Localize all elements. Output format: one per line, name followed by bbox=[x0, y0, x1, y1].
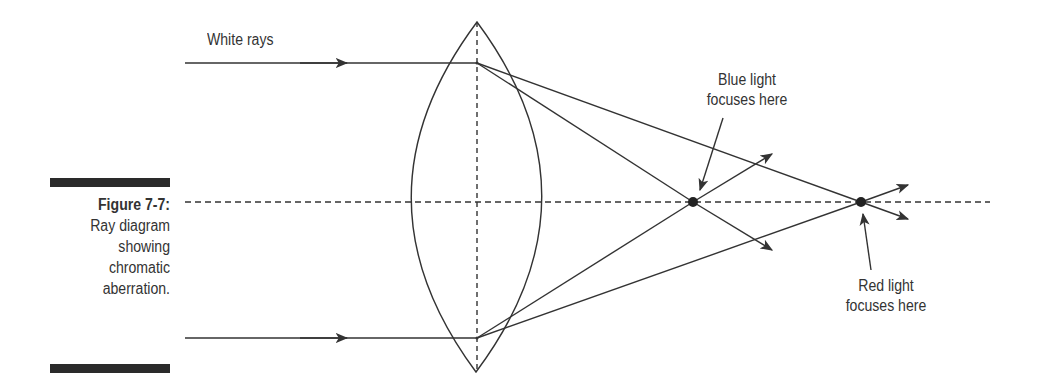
blue-ray-bottom-exit bbox=[693, 154, 772, 202]
blue-focus-label: Blue light focuses here bbox=[690, 70, 804, 110]
red-focus-label: Red light focuses here bbox=[829, 276, 943, 316]
red-focus-label-line2: focuses here bbox=[829, 296, 943, 316]
white-rays-label: White rays bbox=[207, 30, 313, 50]
blue-focus-label-line1: Blue light bbox=[690, 70, 804, 90]
red-focus-label-line1: Red light bbox=[829, 276, 943, 296]
blue-focal-point bbox=[688, 197, 698, 207]
lens-entry-point bbox=[476, 62, 479, 65]
red-focal-point bbox=[856, 197, 866, 207]
red-focus-pointer bbox=[863, 214, 871, 270]
red-ray-bottom bbox=[477, 202, 861, 338]
blue-ray-top bbox=[477, 63, 693, 202]
blue-ray-bottom bbox=[477, 202, 693, 338]
blue-focus-label-line2: focuses here bbox=[690, 90, 804, 110]
ray-diagram bbox=[0, 0, 1039, 388]
red-ray-top-exit bbox=[861, 202, 908, 219]
blue-ray-top-exit bbox=[693, 202, 772, 250]
red-ray-bottom-exit bbox=[861, 185, 908, 202]
blue-focus-pointer bbox=[700, 118, 723, 190]
lens-entry-point bbox=[476, 337, 479, 340]
